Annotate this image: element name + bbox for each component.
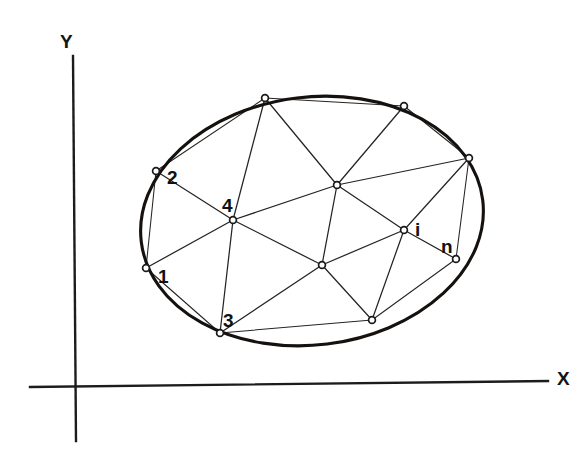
mesh-node-2: [153, 168, 160, 175]
mesh-node: [334, 182, 341, 189]
domain-boundary-group: [126, 77, 498, 365]
mesh-edge: [265, 98, 337, 185]
node-labels-group: 1234in: [158, 167, 453, 331]
y-axis-label: Y: [60, 31, 73, 52]
mesh-edge: [220, 320, 372, 333]
axes-group: X Y: [30, 31, 570, 441]
mesh-edge: [322, 230, 404, 265]
mesh-edge: [372, 259, 456, 320]
mesh-node-1: [143, 265, 150, 272]
mesh-edge: [233, 185, 337, 220]
mesh-node: [262, 95, 269, 102]
mesh-edge: [372, 230, 404, 320]
mesh-figure: X Y 1234in: [0, 0, 588, 451]
mesh-edge: [322, 265, 372, 320]
mesh-edge: [337, 185, 404, 230]
mesh-node-n: [453, 256, 460, 263]
node-label-4: 4: [222, 195, 233, 216]
mesh-node: [401, 103, 408, 110]
node-label-2: 2: [167, 167, 178, 188]
mesh-edge: [322, 185, 337, 265]
node-label-1: 1: [158, 266, 169, 287]
elliptical-domain-boundary: [126, 77, 498, 365]
mesh-edge: [456, 158, 469, 259]
mesh-nodes-group: [143, 95, 473, 337]
mesh-diagram-canvas: X Y 1234in: [0, 0, 588, 451]
mesh-edge: [220, 265, 322, 333]
mesh-node-i: [401, 227, 408, 234]
x-axis-label: X: [557, 368, 570, 389]
mesh-edges-group: [146, 98, 469, 333]
mesh-edge: [146, 220, 233, 268]
y-axis-line: [73, 56, 76, 441]
mesh-node-4: [230, 217, 237, 224]
node-label-n: n: [441, 236, 453, 257]
node-label-3: 3: [223, 310, 234, 331]
mesh-node: [319, 262, 326, 269]
mesh-node: [466, 155, 473, 162]
node-label-i: i: [415, 219, 420, 240]
x-axis-line: [30, 381, 548, 387]
mesh-node: [369, 317, 376, 324]
mesh-edge: [233, 220, 322, 265]
